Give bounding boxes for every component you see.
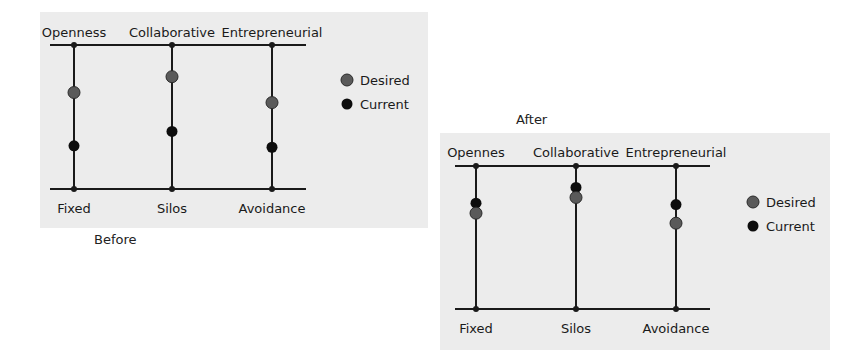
top-label: Collaborative (129, 25, 215, 40)
legend-current-swatch (748, 221, 759, 232)
legend-desired-label: Desired (360, 73, 410, 88)
bottom-label: Fixed (57, 201, 91, 216)
desired-point (166, 71, 178, 83)
bottom-label: Avoidance (643, 321, 710, 336)
before-panel: Openness Fixed Collaborative Silos Entre… (40, 12, 428, 228)
axis-openness: Openness Fixed (42, 25, 107, 216)
desired-point (570, 191, 582, 203)
axis-entrepreneurial: Entrepreneurial Avoidance (222, 25, 323, 216)
after-panel: Opennes Fixed Collaborative Silos Entrep… (440, 133, 830, 350)
legend-desired-swatch (341, 74, 353, 86)
top-label: Opennes (447, 145, 505, 160)
current-point (167, 126, 178, 137)
before-caption: Before (94, 232, 137, 247)
desired-point (670, 217, 682, 229)
desired-point (68, 87, 80, 99)
current-point (671, 199, 682, 210)
axis-collaborative: Collaborative Silos (129, 25, 215, 216)
desired-point (470, 207, 482, 219)
desired-point (266, 97, 278, 109)
top-label: Openness (42, 25, 107, 40)
axis-entrepreneurial: Entrepreneurial Avoidance (626, 145, 727, 336)
bottom-label: Fixed (459, 321, 493, 336)
bottom-label: Silos (561, 321, 591, 336)
axis-openness: Opennes Fixed (447, 145, 505, 336)
after-caption: After (516, 112, 547, 127)
legend: Desired Current (747, 195, 816, 234)
legend-desired-label: Desired (766, 195, 816, 210)
legend-desired-swatch (747, 196, 759, 208)
bottom-label: Silos (157, 201, 187, 216)
after-diagram: Opennes Fixed Collaborative Silos Entrep… (440, 133, 830, 350)
bottom-label: Avoidance (239, 201, 306, 216)
legend: Desired Current (341, 73, 410, 112)
legend-current-swatch (342, 99, 353, 110)
current-point (69, 140, 80, 151)
axis-collaborative: Collaborative Silos (533, 145, 619, 336)
legend-current-label: Current (766, 219, 815, 234)
top-label: Entrepreneurial (626, 145, 727, 160)
before-diagram: Openness Fixed Collaborative Silos Entre… (40, 12, 428, 228)
top-label: Collaborative (533, 145, 619, 160)
current-point (267, 142, 278, 153)
legend-current-label: Current (360, 97, 409, 112)
top-label: Entrepreneurial (222, 25, 323, 40)
